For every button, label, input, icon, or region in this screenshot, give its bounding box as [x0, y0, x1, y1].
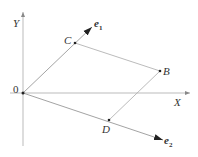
- point-c-label: C: [64, 34, 72, 46]
- vector-e1-label: e1: [94, 17, 103, 32]
- point-d: [108, 119, 111, 122]
- vector-e2-label: e2: [164, 134, 173, 149]
- point-b-label: B: [163, 65, 170, 77]
- point-c: [74, 42, 77, 45]
- point-b: [159, 70, 162, 73]
- vector-e2-subscript: 2: [169, 141, 173, 149]
- vector-e2: [23, 93, 163, 140]
- vector-decomposition-diagram: Y X 0 C B D e1 e2: [0, 0, 198, 157]
- line-c-b: [75, 43, 160, 71]
- x-axis-label: X: [173, 96, 182, 108]
- vector-e1: [23, 27, 92, 93]
- line-d-b: [109, 71, 160, 120]
- point-d-label: D: [101, 123, 110, 135]
- y-axis-label: Y: [13, 17, 21, 29]
- point-origin: [22, 92, 25, 95]
- origin-label: 0: [13, 83, 19, 95]
- vector-e1-subscript: 1: [99, 24, 103, 32]
